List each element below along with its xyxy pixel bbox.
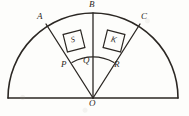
point-label-q: Q: [83, 56, 90, 65]
point-label-o: O: [89, 99, 96, 108]
point-label-p: P: [61, 60, 67, 69]
point-label-c: C: [141, 12, 147, 21]
point-label-a: A: [37, 12, 43, 21]
geometry-figure: A B C P Q R O S K: [0, 0, 189, 116]
point-label-r: R: [114, 60, 120, 69]
point-label-b: B: [89, 0, 95, 9]
